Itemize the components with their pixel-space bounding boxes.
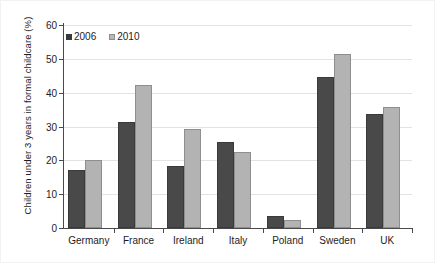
bar-group (213, 25, 263, 228)
x-tick-mark (213, 228, 214, 233)
x-tick-mark (362, 228, 363, 233)
legend-entry-2010: 2010 (109, 31, 139, 42)
bar-poland-2006 (267, 216, 284, 228)
x-tick-mark (412, 228, 413, 233)
bar-uk-2010 (383, 107, 400, 228)
bar-ireland-2006 (167, 166, 184, 228)
x-tick-mark (263, 228, 264, 233)
bar-uk-2006 (366, 114, 383, 228)
bar-italy-2006 (217, 142, 234, 228)
x-axis-line (63, 228, 412, 229)
x-tick-label-sweden: Sweden (319, 235, 355, 246)
plot-area: 0102030405060 GermanyFranceIrelandItalyP… (64, 25, 412, 228)
y-tick-label: 20 (46, 155, 57, 166)
chart-screenshot: Children under 3 years in formal childca… (0, 0, 435, 263)
bar-ireland-2010 (184, 129, 201, 228)
y-tick-label: 40 (46, 87, 57, 98)
bar-germany-2010 (85, 160, 102, 228)
bar-germany-2006 (68, 170, 85, 228)
bar-france-2006 (118, 122, 135, 228)
x-tick-label-france: France (123, 235, 154, 246)
x-tick-mark (313, 228, 314, 233)
legend-swatch-2006 (66, 34, 72, 40)
y-tick-label: 30 (46, 121, 57, 132)
y-axis-title: Children under 3 years in formal childca… (22, 1, 33, 231)
bar-france-2010 (135, 85, 152, 228)
legend-swatch-2010 (109, 34, 115, 40)
x-tick-label-germany: Germany (68, 235, 109, 246)
bar-group (64, 25, 114, 228)
x-tick-mark (163, 228, 164, 233)
legend-label-2006: 2006 (74, 31, 96, 42)
bar-italy-2010 (234, 152, 251, 228)
y-tick-label: 50 (46, 53, 57, 64)
legend-entry-2006: 2006 (66, 31, 96, 42)
chart-legend: 2006 2010 (66, 31, 140, 42)
y-tick-label: 0 (51, 223, 57, 234)
x-tick-label-poland: Poland (272, 235, 303, 246)
bar-group (114, 25, 164, 228)
legend-label-2010: 2010 (117, 31, 139, 42)
y-tick-label: 10 (46, 189, 57, 200)
x-tick-label-uk: UK (380, 235, 394, 246)
bar-group (163, 25, 213, 228)
bar-group (313, 25, 363, 228)
bar-poland-2010 (284, 220, 301, 228)
bar-sweden-2006 (317, 77, 334, 228)
bar-group (263, 25, 313, 228)
x-tick-label-ireland: Ireland (173, 235, 204, 246)
x-tick-label-italy: Italy (229, 235, 247, 246)
x-tick-mark (114, 228, 115, 233)
bar-sweden-2010 (334, 54, 351, 228)
bar-group (362, 25, 412, 228)
y-tick-mark (59, 228, 64, 229)
y-tick-label: 60 (46, 20, 57, 31)
